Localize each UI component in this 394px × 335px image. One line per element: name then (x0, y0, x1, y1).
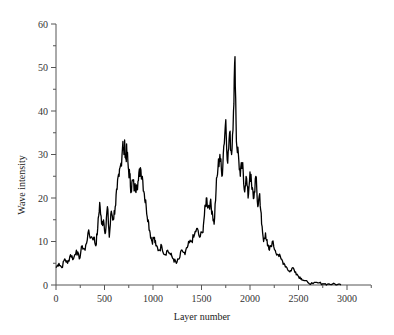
x-tick-label: 0 (54, 293, 59, 304)
y-ticks: 0102030405060 (38, 19, 56, 291)
y-tick-label: 0 (43, 280, 48, 291)
y-axis-title: Wave intensity (16, 155, 27, 214)
x-tick-label: 3000 (337, 293, 357, 304)
y-tick-label: 20 (38, 193, 48, 204)
x-axis-title: Layer number (174, 311, 231, 322)
y-tick-label: 50 (38, 62, 48, 73)
y-tick-label: 30 (38, 149, 48, 160)
y-tick-label: 10 (38, 236, 48, 247)
x-ticks: 050010001500200025003000 (54, 285, 372, 304)
x-tick-label: 2000 (240, 293, 260, 304)
x-tick-label: 1500 (192, 293, 212, 304)
x-tick-label: 2500 (289, 293, 309, 304)
wave-intensity-line (56, 57, 341, 285)
x-tick-label: 500 (97, 293, 112, 304)
y-tick-label: 60 (38, 19, 48, 30)
wave-intensity-chart: 0102030405060 050010001500200025003000 L… (0, 0, 394, 335)
y-tick-label: 40 (38, 106, 48, 117)
axes: 0102030405060 050010001500200025003000 (38, 19, 371, 305)
x-tick-label: 1000 (143, 293, 163, 304)
